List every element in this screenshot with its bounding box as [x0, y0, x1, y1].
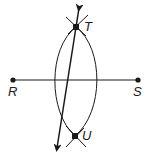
diagram-canvas: R S T U: [0, 0, 147, 155]
construction-svg: R S T U: [0, 0, 147, 155]
label-r: R: [8, 84, 17, 99]
point-r: [10, 77, 15, 82]
point-u: [72, 133, 78, 139]
arc-from-r: [75, 27, 97, 136]
point-s: [135, 77, 140, 82]
point-t: [73, 24, 79, 30]
label-t: T: [84, 19, 93, 34]
label-u: U: [82, 128, 92, 143]
label-s: S: [133, 84, 142, 99]
